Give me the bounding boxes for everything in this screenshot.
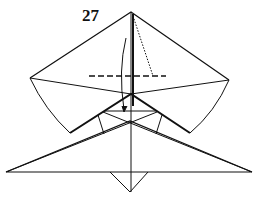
upper-flap-outline xyxy=(30,12,229,80)
bottom-point-flap xyxy=(110,172,148,192)
diagram-drawing xyxy=(0,0,267,202)
inner-wing-edges xyxy=(70,94,190,133)
right-curved-edge xyxy=(190,80,229,133)
origami-diagram: 27 xyxy=(0,0,267,202)
left-curved-edge xyxy=(30,78,70,133)
lower-triangle xyxy=(6,121,252,172)
